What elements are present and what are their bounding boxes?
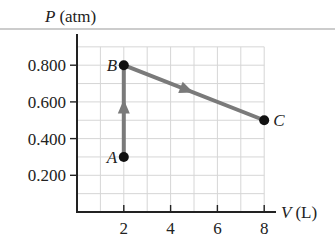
process-path bbox=[118, 65, 264, 157]
state-label-b: B bbox=[107, 56, 118, 75]
chart-canvas: P(atm) 24680.2000.4000.6000.800 ABC V(L) bbox=[0, 0, 335, 250]
y-tick-label: 0.600 bbox=[28, 93, 66, 112]
state-point-c bbox=[259, 115, 269, 125]
grid bbox=[77, 47, 264, 212]
x-tick-label: 8 bbox=[260, 219, 269, 238]
state-label-a: A bbox=[106, 148, 118, 167]
state-points: ABC bbox=[106, 56, 285, 167]
state-label-c: C bbox=[273, 111, 285, 130]
x-tick-label: 2 bbox=[120, 219, 129, 238]
state-point-b bbox=[119, 60, 129, 70]
y-tick-label: 0.800 bbox=[28, 56, 66, 75]
y-tick-label: 0.400 bbox=[28, 130, 66, 149]
state-point-a bbox=[119, 152, 129, 162]
y-tick-label: 0.200 bbox=[28, 166, 66, 185]
x-axis-label: V(L) bbox=[281, 203, 317, 222]
x-tick-label: 6 bbox=[213, 219, 222, 238]
pv-diagram: P(atm) 24680.2000.4000.6000.800 ABC V(L) bbox=[0, 0, 335, 250]
x-tick-label: 4 bbox=[166, 219, 175, 238]
y-axis-label: P(atm) bbox=[44, 7, 96, 26]
